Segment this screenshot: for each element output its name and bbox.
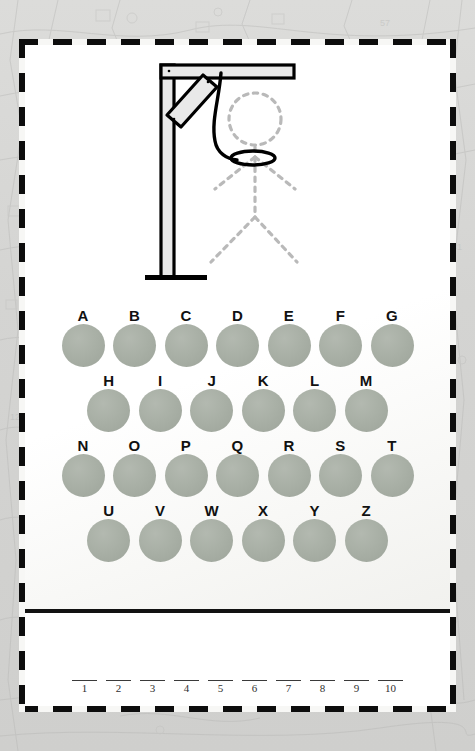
key-disc[interactable]: [190, 519, 233, 562]
answer-slot[interactable]: 7: [276, 665, 301, 694]
key-y[interactable]: Y: [292, 502, 337, 562]
answer-slot[interactable]: 8: [310, 665, 335, 694]
key-disc[interactable]: [216, 324, 259, 367]
key-disc[interactable]: [371, 454, 414, 497]
answer-slot[interactable]: 10: [378, 665, 403, 694]
key-u[interactable]: U: [86, 502, 131, 562]
key-disc[interactable]: [319, 454, 362, 497]
key-disc[interactable]: [87, 389, 130, 432]
key-label: F: [336, 307, 346, 324]
key-z[interactable]: Z: [344, 502, 389, 562]
key-disc[interactable]: [268, 454, 311, 497]
key-row-1: A B C D E: [25, 307, 450, 367]
key-disc[interactable]: [345, 389, 388, 432]
answer-slot-rule: [208, 680, 233, 681]
key-n[interactable]: N: [61, 437, 106, 497]
key-label: P: [181, 437, 191, 454]
key-label: R: [283, 437, 294, 454]
key-disc[interactable]: [139, 389, 182, 432]
key-label: X: [258, 502, 268, 519]
key-a[interactable]: A: [61, 307, 106, 367]
key-b[interactable]: B: [112, 307, 157, 367]
key-label: W: [204, 502, 219, 519]
answer-slot[interactable]: 3: [140, 665, 165, 694]
key-o[interactable]: O: [112, 437, 157, 497]
key-c[interactable]: C: [164, 307, 209, 367]
key-label: I: [158, 372, 163, 389]
key-q[interactable]: Q: [215, 437, 260, 497]
key-disc[interactable]: [87, 519, 130, 562]
key-disc[interactable]: [268, 324, 311, 367]
figure-right-arm-outline: [255, 157, 295, 189]
key-r[interactable]: R: [267, 437, 312, 497]
key-disc[interactable]: [165, 454, 208, 497]
key-label: K: [258, 372, 269, 389]
key-d[interactable]: D: [215, 307, 260, 367]
answer-slot[interactable]: 5: [208, 665, 233, 694]
key-disc[interactable]: [242, 519, 285, 562]
key-label: A: [77, 307, 88, 324]
key-disc[interactable]: [113, 324, 156, 367]
gallows-nail-top: [167, 70, 170, 73]
play-area: A B C D E: [25, 45, 450, 611]
answer-slot[interactable]: 2: [106, 665, 131, 694]
key-disc[interactable]: [319, 324, 362, 367]
key-disc[interactable]: [113, 454, 156, 497]
key-f[interactable]: F: [318, 307, 363, 367]
key-k[interactable]: K: [241, 372, 286, 432]
stick-figure-outline: [211, 93, 297, 262]
answer-slot-index: 1: [82, 682, 88, 694]
key-disc[interactable]: [190, 389, 233, 432]
key-disc[interactable]: [139, 519, 182, 562]
key-g[interactable]: G: [370, 307, 415, 367]
key-disc[interactable]: [165, 324, 208, 367]
answer-slot[interactable]: 1: [72, 665, 97, 694]
key-disc[interactable]: [371, 324, 414, 367]
key-disc[interactable]: [62, 324, 105, 367]
answer-slot-rule: [378, 680, 403, 681]
answer-slot[interactable]: 6: [242, 665, 267, 694]
answer-slot-index: 9: [354, 682, 360, 694]
key-disc[interactable]: [293, 519, 336, 562]
key-x[interactable]: X: [241, 502, 286, 562]
key-e[interactable]: E: [267, 307, 312, 367]
key-disc[interactable]: [62, 454, 105, 497]
answer-slot[interactable]: 4: [174, 665, 199, 694]
key-m[interactable]: M: [344, 372, 389, 432]
key-label: N: [77, 437, 88, 454]
alphabet-keyboard[interactable]: A B C D E: [25, 307, 450, 567]
answer-panel: 1 2 3 4: [25, 613, 450, 706]
key-disc[interactable]: [216, 454, 259, 497]
svg-text:57: 57: [380, 18, 390, 28]
key-label: C: [180, 307, 191, 324]
gallows-illustration: [145, 59, 331, 291]
answer-slot-rule: [344, 680, 369, 681]
answer-slot[interactable]: 9: [344, 665, 369, 694]
key-label: T: [387, 437, 397, 454]
key-s[interactable]: S: [318, 437, 363, 497]
answer-slot-index: 5: [218, 682, 224, 694]
answer-slot-rule: [242, 680, 267, 681]
key-disc[interactable]: [345, 519, 388, 562]
frame-border-bottom: [19, 706, 456, 712]
key-disc[interactable]: [242, 389, 285, 432]
answer-slot-rule: [72, 680, 97, 681]
key-i[interactable]: I: [138, 372, 183, 432]
key-t[interactable]: T: [370, 437, 415, 497]
key-v[interactable]: V: [138, 502, 183, 562]
key-p[interactable]: P: [164, 437, 209, 497]
key-l[interactable]: L: [292, 372, 337, 432]
gallows-post: [161, 65, 174, 277]
answer-slot-index: 2: [116, 682, 122, 694]
key-h[interactable]: H: [86, 372, 131, 432]
gallows-nail-brace-bottom: [172, 118, 175, 121]
gallows-beam: [161, 65, 294, 78]
key-disc[interactable]: [293, 389, 336, 432]
answer-slot-index: 10: [385, 682, 396, 694]
key-label: G: [386, 307, 398, 324]
figure-head-outline: [229, 93, 281, 145]
answer-slot-index: 3: [150, 682, 156, 694]
key-w[interactable]: W: [189, 502, 234, 562]
game-card-frame: A B C D E: [19, 39, 456, 712]
key-j[interactable]: J: [189, 372, 234, 432]
